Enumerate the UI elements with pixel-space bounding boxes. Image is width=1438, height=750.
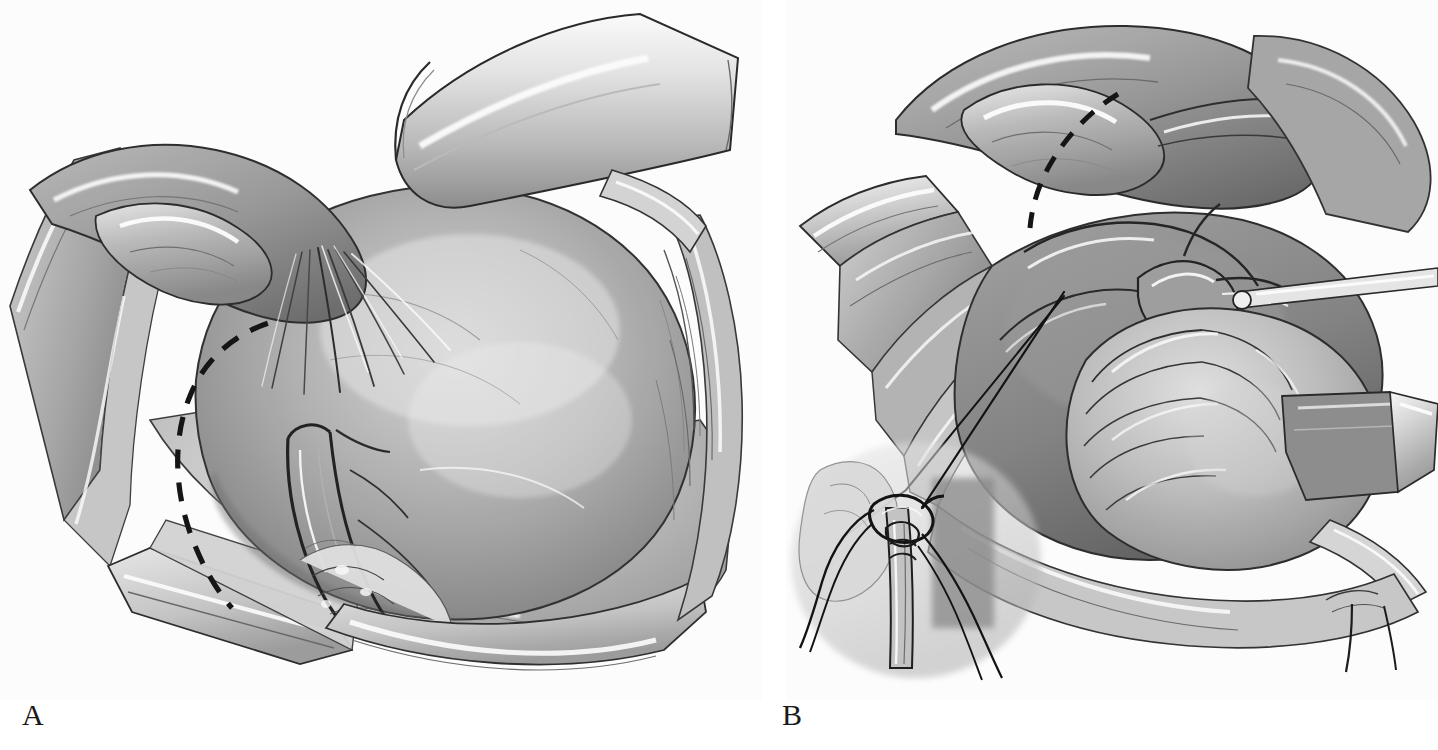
panel-a-artwork <box>0 0 762 700</box>
plate-texture <box>0 0 762 700</box>
panel-label-a: A <box>22 700 44 730</box>
panel-b-artwork <box>786 0 1438 700</box>
plate-texture <box>786 0 1438 700</box>
panel-a <box>0 0 762 700</box>
figure-page: A B <box>0 0 1438 750</box>
panel-label-b: B <box>782 700 803 730</box>
panel-b <box>786 0 1438 700</box>
